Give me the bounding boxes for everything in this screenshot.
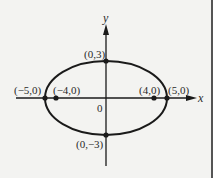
label-left-vertex: (−5,0) <box>14 85 41 96</box>
point-left-focus <box>53 95 58 100</box>
label-left-focus: (−4,0) <box>53 85 80 96</box>
point-right-vertex <box>164 95 169 100</box>
x-axis-label: x <box>198 92 203 104</box>
label-right-vertex: (5,0) <box>168 85 189 96</box>
y-axis-label: y <box>103 12 108 24</box>
label-bottom-covertex: (0,−3) <box>76 139 103 150</box>
y-axis-arrow-icon <box>103 24 109 35</box>
label-top-covertex: (0,3) <box>84 49 105 60</box>
origin-label: 0 <box>97 103 103 114</box>
label-right-focus: (4,0) <box>139 85 160 96</box>
point-left-vertex <box>42 95 47 100</box>
point-right-focus <box>151 95 156 100</box>
page-edge <box>211 0 213 178</box>
point-bottom-covertex <box>103 132 108 137</box>
